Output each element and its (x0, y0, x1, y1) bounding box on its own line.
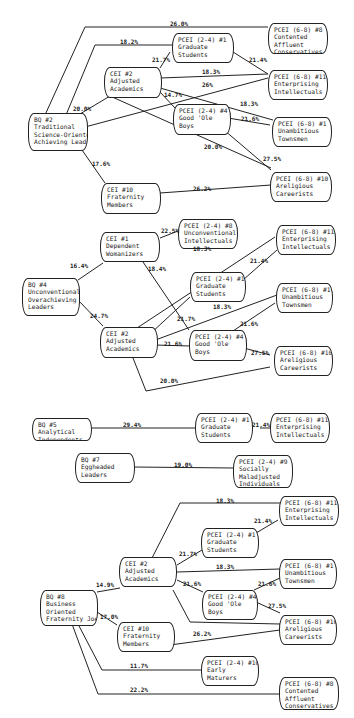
node-pcei1-graduate-students: PCEI (2-4) #1 Graduate Students (190, 272, 246, 302)
node-line: PCEI (6-8) #1 (285, 562, 332, 569)
node-pcei1-unambitious-townsmen: PCEI (6-8) #1 Unambitious Townsmen (276, 283, 333, 313)
node-line: PCEI (6-8) #10 (285, 618, 332, 625)
edge-label: 27.5% (251, 349, 269, 356)
node-line: Analytical (38, 428, 87, 435)
edge-label: 14.9% (96, 581, 114, 588)
node-line: Intellectuals (285, 514, 334, 521)
node-line: Maturers (207, 674, 254, 681)
node-line: Good 'Ole (208, 600, 253, 607)
edge-label: 21.6% (164, 340, 182, 347)
node-line: Areligious (285, 625, 332, 632)
node-line: Enterprising (276, 423, 325, 430)
node-line: Fraternity (107, 193, 156, 200)
edge-label: 18.3% (193, 245, 211, 252)
node-line: Individuals (239, 480, 288, 487)
node-line: Graduate (207, 538, 254, 545)
node-line: Conservatives (285, 702, 334, 709)
node-line: Boys (195, 348, 242, 355)
node-line: Graduate (196, 282, 241, 289)
node-line: Independents (38, 436, 87, 441)
node-line: Townsmen (282, 301, 328, 308)
edge-label: 20.0% (204, 143, 222, 150)
node-line: PCEI (2-4) #8 (184, 222, 233, 229)
edge-label: 21.4% (252, 421, 270, 428)
node-line: Townsmen (278, 135, 327, 142)
node-line: PCEI (2-4) #1 (178, 36, 229, 43)
node-line: Intellectuals (184, 237, 233, 244)
node-line: Good 'Ole (179, 114, 226, 121)
node-pcei1-unambitious-townsmen: PCEI (6-8) #1 Unambitious Townsmen (279, 559, 337, 589)
node-line: CEI #10 (123, 625, 170, 632)
node-line: Unconventional (184, 229, 233, 236)
edge-label: 24.7% (90, 312, 108, 319)
node-line: Leaders (81, 471, 130, 478)
node-pcei10-areligious-careerists: PCEI (6-8) #10 Areligious Careerists (279, 615, 337, 645)
node-line: CEI #1 (106, 235, 155, 242)
node-line: PCEI (2-4) #10 (207, 659, 254, 666)
node-line: Affluent (274, 41, 323, 48)
edge-label: 14.7% (164, 91, 182, 98)
edge-label: 19.0% (174, 461, 192, 468)
node-bq5-analytical-independents: BQ #5 Analytical Independents (32, 418, 92, 441)
node-line: Students (178, 51, 229, 58)
node-line: Areligious (280, 356, 328, 363)
node-bq2-traditional-achieving-leaders: BQ #2 Traditional Science-Oriented Achie… (28, 113, 88, 151)
node-pcei9-socially-maladjusted-individuals: PCEI (2-4) #9 Socially Maladjusted Indiv… (233, 455, 293, 488)
node-line: PCEI (2-4) #4 (195, 333, 242, 340)
node-line: Early (207, 666, 254, 673)
edge-cei2-q10 (133, 358, 270, 391)
node-line: Overachieving (28, 296, 75, 303)
node-pcei1-unambitious-townsmen: PCEI (6-8) #1 Unambitious Townsmen (272, 117, 332, 147)
node-line: Members (123, 640, 170, 647)
node-cei10-fraternity-members: CEI #10 Fraternity Members (117, 622, 175, 652)
node-line: BQ #7 (81, 456, 130, 463)
edge-label: 22.5% (161, 227, 179, 234)
node-pcei1-graduate-students: PCEI (2-4) #1 Graduate Students (195, 413, 253, 443)
edge-label: 26% (202, 81, 213, 88)
node-line: Intellectuals (274, 88, 323, 95)
edge-label: 18.3% (216, 563, 234, 570)
node-line: Achieving Leaders (34, 138, 83, 145)
node-line: Unambitious (278, 127, 327, 134)
edge-label: 18.4% (148, 265, 166, 272)
node-line: Socially (239, 465, 288, 472)
edge-label: 16.4% (70, 262, 88, 269)
node-line: PCEI (2-4) #1 (207, 531, 254, 538)
node-line: Graduate (201, 423, 248, 430)
node-pcei11-enterprising-intellectuals: PCEI (6-8) #11 Enterprising Intellectual… (279, 496, 339, 526)
node-pcei11-enterprising-intellectuals: PCEI (6-8) #11 Enterprising Intellectual… (270, 413, 330, 443)
edge-label: 29.4% (123, 421, 141, 428)
edge-label: 11.7% (130, 662, 148, 669)
edge-label: 17.0% (100, 613, 118, 620)
node-line: Adjusted (110, 77, 157, 84)
node-pcei10-areligious-careerists: PCEI (6-8) #10 Areligious Careerists (270, 172, 332, 202)
node-line: Boys (179, 122, 226, 129)
node-line: PCEI (6-8) #1 (282, 286, 328, 293)
edge-label: 20.0% (160, 377, 178, 384)
edge-label: 21.4% (249, 56, 267, 63)
node-line: PCEI (6-8) #11 (282, 228, 331, 235)
node-line: Unambitious (285, 569, 332, 576)
edge-bq8-cei2 (97, 588, 120, 592)
node-line: Graduate (178, 43, 229, 50)
node-pcei1-graduate-students: PCEI (2-4) #1 Graduate Students (172, 33, 234, 63)
node-pcei4-good-ole-boys: PCEI (2-4) #4 Good 'Ole Boys (189, 330, 247, 361)
node-line: Townsmen (285, 577, 332, 584)
node-line: PCEI (2-4) #9 (239, 458, 288, 465)
node-line: Affluent (285, 695, 334, 702)
node-line: Adjusted (106, 337, 153, 344)
node-line: Students (207, 546, 254, 553)
node-line: PCEI (2-4) #1 (196, 275, 241, 282)
node-line: PCEI (6-8) #10 (280, 349, 328, 356)
node-line: Careerists (276, 190, 327, 197)
node-line: Adjusted (125, 567, 172, 574)
node-line: Enterprising (282, 235, 331, 242)
node-line: Members (107, 201, 156, 208)
node-line: BQ #4 (28, 281, 75, 288)
node-cei2-adjusted-academics: CEI #2 Adjusted Academics (100, 327, 158, 358)
node-pcei8-contented-affluent-conservatives: PCEI (6-8) #8 Contented Affluent Conserv… (268, 23, 328, 54)
node-line: PCEI (6-8) #11 (285, 499, 334, 506)
node-line: Dependent (106, 242, 155, 249)
node-line: Careerists (285, 633, 332, 640)
node-line: PCEI (6-8) #10 (276, 175, 327, 182)
